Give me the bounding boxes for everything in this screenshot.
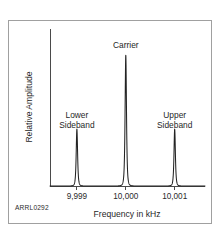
spectrum-figure: 9,99910,00010,001 Frequency in kHz Relat… (0, 0, 221, 236)
peak-annotation-line: Upper (163, 110, 186, 120)
x-axis-tick-label: 10,001 (162, 192, 187, 201)
peak-annotation-line: Sideband (157, 120, 193, 130)
x-axis-tick-label: 10,000 (113, 192, 138, 201)
spectrum-plot: 9,99910,00010,001 Frequency in kHz Relat… (9, 21, 211, 223)
x-axis-tick-label: 9,999 (67, 192, 88, 201)
x-axis-tick-labels: 9,99910,00010,001 (67, 192, 188, 201)
figure-border: 9,99910,00010,001 Frequency in kHz Relat… (8, 20, 212, 224)
x-axis-title: Frequency in kHz (94, 209, 161, 219)
peak-annotation: Carrier (113, 40, 139, 50)
peak-annotation: UpperSideband (157, 110, 193, 130)
y-axis-title: Relative Amplitude (24, 71, 34, 142)
credit-label: ARRL0292 (15, 204, 49, 211)
peak-annotation-line: Carrier (113, 40, 139, 50)
peak-annotation-line: Lower (65, 110, 88, 120)
peak-annotation: LowerSideband (59, 110, 95, 130)
x-axis-ticks (77, 186, 175, 190)
peak-annotation-line: Sideband (59, 120, 95, 130)
